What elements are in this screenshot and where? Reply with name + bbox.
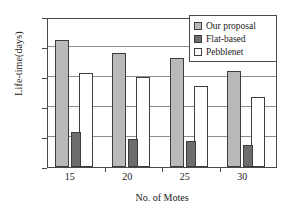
- chart-legend: Our proposal Flat-based Pebblenet: [189, 15, 277, 62]
- y-axis-tick-mark: [42, 168, 47, 169]
- x-axis-tick-label: 25: [165, 171, 205, 182]
- bar-our-proposal-15: [55, 40, 69, 167]
- chart-figure: Life-time(days) 0510152025 Our proposal …: [0, 0, 282, 213]
- bar-pebblenet-30: [251, 97, 265, 167]
- x-axis-tick-label: 30: [222, 171, 262, 182]
- legend-item: Flat-based: [194, 32, 272, 45]
- legend-label-flat-based: Flat-based: [206, 34, 246, 44]
- x-axis-tick-label: 20: [107, 171, 147, 182]
- legend-label-our-proposal: Our proposal: [206, 21, 256, 31]
- y-axis-title: Life-time(days): [13, 9, 24, 119]
- x-axis-tick-mark: [220, 168, 221, 172]
- bar-our-proposal-30: [227, 71, 241, 167]
- legend-label-pebblenet: Pebblenet: [206, 47, 243, 57]
- bar-pebblenet-20: [136, 77, 150, 167]
- bar-pebblenet-15: [79, 73, 93, 167]
- legend-swatch-our-proposal: [194, 22, 202, 30]
- bar-flat-based-25: [186, 141, 196, 167]
- legend-swatch-pebblenet: [194, 48, 202, 56]
- legend-item: Pebblenet: [194, 45, 272, 58]
- legend-swatch-flat-based: [194, 35, 202, 43]
- plot-area: Our proposal Flat-based Pebblenet: [47, 18, 277, 168]
- bar-flat-based-15: [71, 132, 81, 167]
- bar-our-proposal-25: [170, 58, 184, 167]
- x-axis-tick-mark: [105, 168, 106, 172]
- x-axis-title: No. of Motes: [47, 192, 277, 203]
- bar-our-proposal-20: [112, 53, 126, 167]
- bar-flat-based-30: [243, 145, 253, 167]
- x-axis-tick-label: 15: [50, 171, 90, 182]
- x-axis-tick-mark: [162, 168, 163, 172]
- legend-item: Our proposal: [194, 19, 272, 32]
- bar-flat-based-20: [128, 139, 138, 167]
- bar-pebblenet-25: [194, 86, 208, 167]
